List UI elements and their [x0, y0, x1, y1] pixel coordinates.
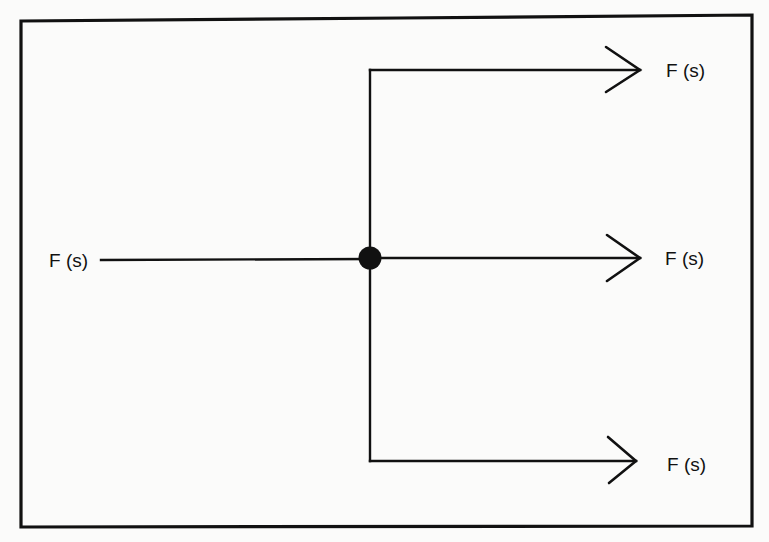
branch-point-node [359, 247, 382, 270]
output-label-top: F (s) [666, 60, 705, 81]
output-label-bottom: F (s) [667, 454, 706, 475]
output-label-middle: F (s) [665, 248, 704, 269]
block-diagram: F (s) F (s) F (s) F (s) [0, 0, 769, 542]
input-label: F (s) [49, 250, 88, 271]
diagram-frame [21, 15, 752, 527]
input-signal-line [101, 259, 370, 260]
